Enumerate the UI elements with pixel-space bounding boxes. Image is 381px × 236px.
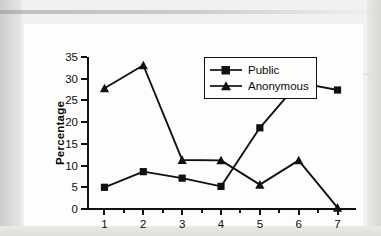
x-axis-minor-tick (123, 209, 125, 213)
y-axis-tick-label: 20 (65, 116, 78, 128)
y-axis-tick-label: 10 (65, 160, 78, 172)
y-axis-tick-label: 15 (65, 138, 78, 150)
x-axis-tick-label: 6 (295, 218, 301, 230)
scan-artifact-band (0, 13, 381, 24)
y-axis-tick-label: 35 (65, 51, 78, 63)
x-axis-tick (298, 209, 300, 215)
triangle-marker-icon (294, 156, 303, 165)
x-axis-tick-label: 2 (140, 218, 146, 230)
square-marker-icon (217, 183, 224, 190)
page-edge-right-shadow (367, 0, 381, 236)
square-marker-icon (256, 124, 263, 131)
square-marker-icon (334, 86, 341, 93)
x-axis-tick-label: 1 (101, 218, 107, 230)
x-axis-tick (181, 209, 183, 215)
x-axis-tick-label: 7 (334, 218, 340, 230)
x-axis-tick (220, 209, 222, 215)
x-axis-tick (103, 209, 105, 215)
chart-figure: Percentage Measure of costs 051015202530… (24, 24, 363, 226)
y-axis-tick-label: 5 (72, 181, 78, 193)
x-axis-title: Measure of costs (87, 234, 356, 236)
chart-legend: Public Anonymous (204, 57, 317, 99)
page-edge-left-shadow (0, 0, 22, 236)
triangle-marker-icon (100, 84, 109, 93)
legend-item-public: Public (209, 62, 311, 78)
x-axis-tick-label: 3 (179, 218, 185, 230)
x-axis-minor-tick (278, 209, 280, 213)
x-axis-minor-tick (162, 209, 164, 213)
legend-label-public: Public (248, 64, 279, 76)
legend-label-anonymous: Anonymous (248, 80, 309, 92)
legend-item-anonymous: Anonymous (209, 78, 311, 94)
triangle-marker-icon (139, 61, 148, 70)
y-axis-tick-label: 0 (72, 203, 78, 215)
x-axis-tick (259, 209, 261, 215)
square-marker-icon (209, 63, 243, 77)
triangle-marker-icon (255, 180, 264, 189)
x-axis-minor-tick (201, 209, 203, 213)
x-axis-tick (142, 209, 144, 215)
x-axis-minor-tick (239, 209, 241, 213)
x-axis-minor-tick (317, 209, 319, 213)
square-marker-icon (101, 184, 108, 191)
y-axis-tick-label: 25 (65, 94, 78, 106)
y-axis-tick-label: 30 (65, 73, 78, 85)
triangle-marker-icon (209, 79, 243, 93)
x-axis-tick-label: 4 (218, 218, 224, 230)
x-axis-tick-label: 5 (257, 218, 263, 230)
square-marker-icon (140, 168, 147, 175)
square-marker-icon (179, 175, 186, 182)
